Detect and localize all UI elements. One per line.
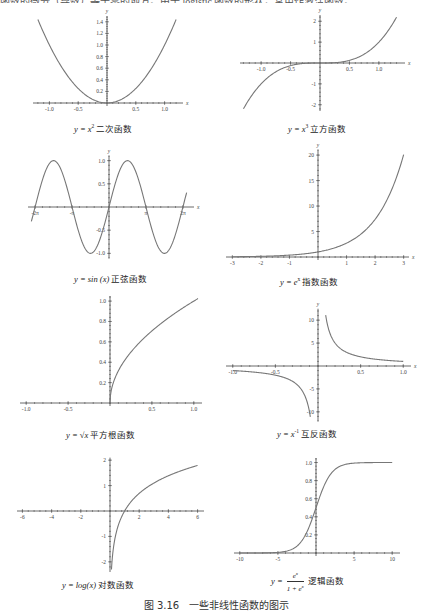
x-tick-label: 10 [389, 556, 395, 562]
caption-name: 互反函数 [301, 429, 337, 439]
y-tick-label: 2 [313, 18, 316, 24]
x-tick-label: 4 [167, 514, 170, 520]
chart-cubic: -1.0-0.50.51.0-2-112xy [240, 7, 411, 111]
y-tick-label: 0.4 [305, 514, 312, 520]
curve-reciprocal-1 [326, 315, 404, 361]
x-tick-label: 3 [402, 260, 405, 266]
chart-quadratic: -1.0-0.50.51.00.20.40.60.81.01.21.4xy [33, 8, 189, 112]
caption-formula: y = x [288, 124, 306, 134]
x-tick-label: 1 [345, 260, 348, 266]
y-tick-label: 0.5 [98, 181, 105, 187]
x-tick-label: -4 [49, 514, 54, 520]
x-tick-label: 1.0 [400, 369, 407, 375]
figure-caption: 图 3.16 一些非线性函数的图示 [0, 597, 433, 612]
y-tick-label: 15 [309, 178, 315, 184]
caption-fraction: ex 1 + ex [287, 569, 304, 595]
x-axis-label: x [411, 254, 415, 260]
y-tick-label: -2 [101, 559, 106, 565]
x-tick-label: -2 [259, 260, 264, 266]
caption-exponent: x [298, 276, 301, 282]
caption-formula: y = sin (x) [74, 274, 109, 284]
curve-logarithm [111, 465, 197, 569]
y-tick-label: -1.0 [96, 250, 105, 256]
chart-exponential: -3-2-11235101520xy [226, 142, 415, 266]
caption-quadratic: y = x2 二次函数 [74, 122, 132, 134]
y-tick-label: 1 [103, 483, 106, 489]
x-tick-label: 1.0 [190, 406, 197, 412]
x-tick-label: -0.5 [64, 406, 73, 412]
x-tick-label: -1.0 [22, 406, 31, 412]
x-tick-label: 6 [196, 514, 199, 520]
y-tick-label: -5 [309, 386, 314, 392]
chart-sine: -2π-ππ2π-1.0-0.50.51.0xy [28, 148, 200, 258]
x-tick-label: 0.5 [357, 369, 364, 375]
y-tick-label: 0.4 [99, 359, 106, 365]
y-axis-label: y [107, 148, 111, 154]
figure-canvas: -1.0-0.50.51.00.20.40.60.81.01.21.4xy-1.… [0, 0, 433, 615]
x-tick-label: 0.5 [132, 106, 139, 112]
caption-name: 对数函数 [98, 580, 134, 590]
x-tick-label: 1.0 [161, 106, 168, 112]
chart-logistic: -10-55100.20.40.60.81.0 [234, 458, 400, 562]
y-tick-label: 1 [313, 39, 316, 45]
x-tick-label: 0.5 [346, 66, 353, 72]
y-tick-label: -10 [307, 409, 315, 415]
chart-reciprocal: -1.0-0.50.51.0-10-5510xy [226, 301, 417, 421]
y-tick-label: 1.0 [96, 42, 103, 48]
x-axis-label: x [196, 204, 200, 210]
y-tick-label: -1 [101, 533, 106, 539]
y-tick-label: 0.6 [99, 339, 106, 345]
chart-logarithm: -6-4-2246-2-112 [17, 457, 204, 572]
x-axis-label: x [413, 363, 417, 369]
y-tick-label: 2 [103, 457, 106, 463]
y-tick-label: 0.6 [96, 65, 103, 71]
y-tick-label: 0.6 [305, 496, 312, 502]
caption-formula: y = e [280, 277, 298, 287]
x-tick-label: 2 [138, 514, 141, 520]
caption-sine: y = sin (x) 正弦函数 [74, 272, 147, 284]
y-tick-label: 1.0 [99, 298, 106, 304]
x-tick-label: -2 [79, 514, 84, 520]
caption-reciprocal: y = x-1 互反函数 [277, 427, 337, 439]
caption-exponential: y = ex 指数函数 [280, 275, 338, 287]
x-tick-label: 0.5 [148, 406, 155, 412]
caption-exponent: 2 [92, 123, 95, 129]
x-axis-label: x [185, 100, 189, 106]
x-tick-label: -10 [236, 556, 244, 562]
caption-exponent: -1 [295, 428, 300, 434]
x-tick-label: 5 [353, 556, 356, 562]
caption-cubic: y = x3 立方函数 [288, 122, 346, 134]
y-tick-label: 1.0 [98, 158, 105, 164]
x-tick-label: -1.0 [257, 66, 266, 72]
y-tick-label: 1.0 [305, 460, 312, 466]
x-tick-label: -5 [276, 556, 281, 562]
y-tick-label: 0.2 [96, 88, 103, 94]
y-tick-label: 0.8 [96, 54, 103, 60]
y-axis-label: y [316, 142, 320, 148]
caption-formula: y = log(x) [62, 580, 96, 590]
x-tick-label: -0.5 [74, 106, 83, 112]
caption-formula: y = x [74, 124, 92, 134]
caption-formula: y = x [277, 429, 295, 439]
caption-name: 正弦函数 [111, 274, 147, 284]
y-tick-label: 10 [309, 317, 315, 323]
caption-formula: y = √x [66, 430, 88, 440]
curve-reciprocal-0 [233, 371, 311, 417]
caption-logarithm: y = log(x) 对数函数 [62, 578, 134, 590]
y-tick-label: 5 [311, 340, 314, 346]
x-tick-label: -1.0 [228, 369, 237, 375]
y-tick-label: -2 [311, 102, 316, 108]
caption-sqrt: y = √x 平方根函数 [66, 428, 135, 440]
x-tick-label: -1 [287, 260, 292, 266]
y-tick-label: -1 [311, 81, 316, 87]
fraction-denominator: 1 + ex [287, 582, 304, 594]
x-tick-label: 1.0 [375, 66, 382, 72]
caption-name: 平方根函数 [90, 430, 135, 440]
x-axis-label: x [407, 60, 411, 66]
caption-name: 二次函数 [96, 124, 132, 134]
y-axis-label: y [105, 8, 109, 14]
caption-name: 逻辑函数 [308, 576, 344, 586]
caption-name: 指数函数 [302, 277, 338, 287]
y-tick-label: 10 [309, 203, 315, 209]
x-tick-label: -1.0 [45, 106, 54, 112]
